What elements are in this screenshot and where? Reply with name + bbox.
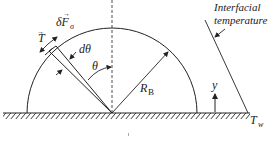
svg-text:Interfacial: Interfacial — [213, 1, 260, 13]
svg-text:B: B — [148, 87, 154, 97]
dtheta-arrow-top — [70, 52, 76, 59]
svg-text:→: → — [63, 10, 70, 18]
stray-mark — [128, 133, 129, 136]
svg-text:σ: σ — [70, 22, 75, 31]
y-axis-label: y — [211, 78, 218, 92]
surface-force-arrow — [48, 37, 57, 44]
wall-temperature-label: T w — [250, 113, 264, 129]
tension-vec-bar: → — [37, 28, 44, 36]
dtheta-arrow-bottom — [56, 70, 62, 75]
theta-label: θ — [92, 59, 98, 73]
surface-element-strip — [45, 46, 112, 113]
bubble-diagram: T → δF σ → dθ θ R B y T w Interfacial te… — [0, 0, 274, 145]
tension-arrow — [40, 44, 48, 52]
interfacial-temperature-label: Interfacial temperature — [213, 1, 267, 26]
surface-force-label: δF σ → — [56, 10, 75, 31]
interfacial-temperature-line — [205, 20, 248, 113]
svg-text:T: T — [250, 113, 258, 127]
svg-text:temperature: temperature — [214, 14, 267, 26]
svg-text:R: R — [139, 81, 148, 95]
svg-text:w: w — [258, 120, 264, 129]
dtheta-label: dθ — [79, 42, 91, 56]
interfacial-pointer-arrow — [215, 29, 225, 37]
radius-label: R B — [139, 81, 154, 97]
heated-wall — [3, 113, 250, 119]
